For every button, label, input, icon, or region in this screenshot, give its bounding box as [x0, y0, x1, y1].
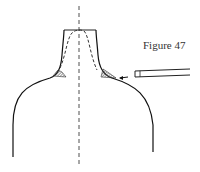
figure-canvas: Figure 47 [0, 0, 200, 172]
arrow-head-icon [119, 76, 123, 80]
inner-dashed-profile [60, 30, 97, 70]
left-hatched-region [53, 70, 66, 77]
bottle-outline [13, 30, 153, 157]
figure-label: Figure 47 [143, 39, 185, 51]
bottle-neck-diagram [0, 0, 200, 172]
right-hatched-region [101, 69, 116, 78]
tube-tool [135, 69, 190, 77]
